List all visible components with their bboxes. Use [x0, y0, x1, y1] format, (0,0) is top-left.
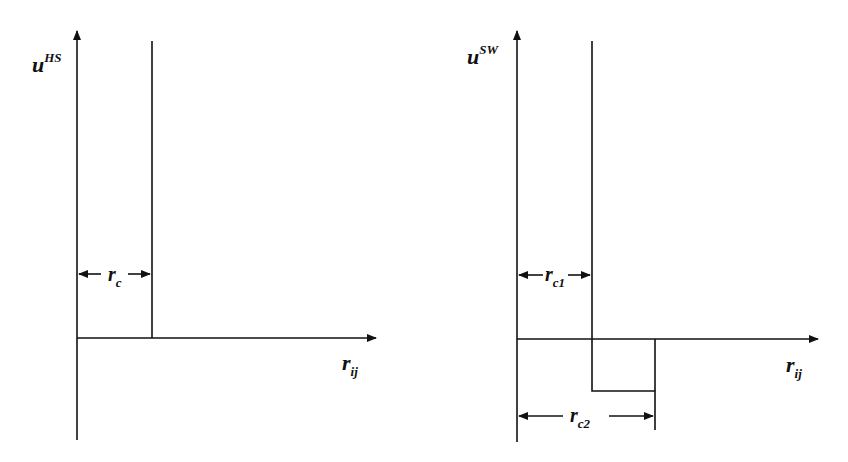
x-axis-label: rij	[786, 352, 802, 381]
rc-label: rc	[108, 263, 122, 290]
rc2-label: rc2	[570, 404, 591, 431]
y-axis-label: uSW	[467, 42, 499, 69]
hard-sphere-panel	[77, 31, 376, 440]
rc1-label: rc1	[545, 263, 565, 290]
x-axis-label: rij	[342, 350, 358, 379]
well-profile	[592, 41, 655, 430]
square-well-panel	[517, 31, 818, 442]
potential-diagrams: uHS rij rc uSW rij rc1 rc2	[0, 0, 848, 462]
y-axis-label: uHS	[32, 50, 62, 77]
